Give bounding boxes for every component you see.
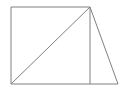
geometry-figure <box>0 0 128 94</box>
figure-background <box>0 0 128 94</box>
